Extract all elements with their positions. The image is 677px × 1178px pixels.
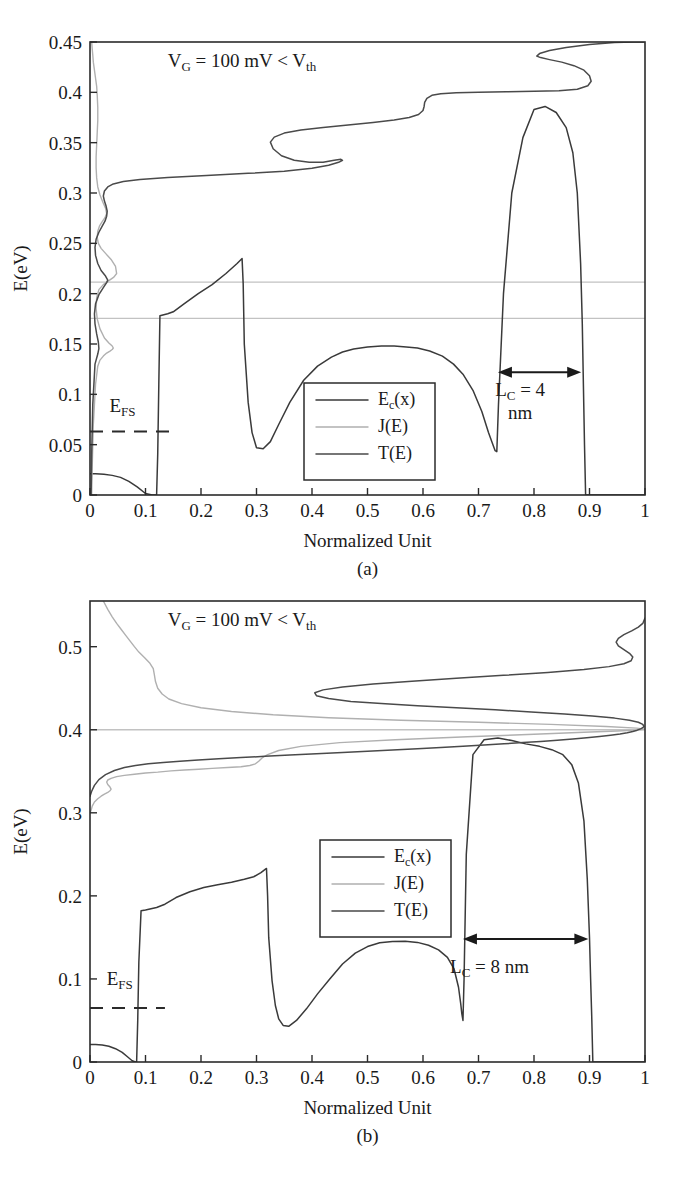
lc-label: LC = 4nm: [495, 379, 545, 423]
lc-arrow-head-right: [567, 367, 581, 378]
legend-box: [320, 840, 451, 937]
x-axis-title: Normalized Unit: [303, 530, 432, 551]
x-tick-label: 0.6: [411, 500, 435, 521]
x-tick-label: 0.2: [189, 1067, 213, 1088]
bias-condition-annotation: VG = 100 mV < Vth: [168, 609, 317, 633]
plot-b: 00.10.20.30.40.50.60.70.80.9100.10.20.30…: [0, 590, 677, 1178]
x-tick-label: 1: [640, 500, 650, 521]
x-tick-label: 1: [640, 1067, 650, 1088]
x-tick-label: 0.9: [578, 500, 602, 521]
x-tick-label: 0.5: [356, 500, 380, 521]
x-axis-title: Normalized Unit: [303, 1097, 432, 1118]
x-tick-label: 0.1: [134, 500, 158, 521]
efs-label: EFS: [109, 395, 135, 419]
y-tick-label: 0.25: [49, 233, 82, 254]
x-tick-label: 0: [85, 1067, 95, 1088]
x-tick-label: 0.7: [467, 1067, 491, 1088]
y-axis-title: E(eV): [10, 808, 32, 854]
x-tick-label: 0.8: [522, 1067, 546, 1088]
curve-je: [90, 601, 645, 813]
y-tick-label: 0.45: [49, 32, 82, 53]
y-tick-label: 0: [73, 485, 83, 506]
legend-label-te: T(E): [378, 443, 412, 464]
panel-a: 00.10.20.30.40.50.60.70.80.9100.050.10.1…: [0, 0, 677, 590]
y-tick-label: 0.05: [49, 435, 82, 456]
x-tick-label: 0.7: [467, 500, 491, 521]
y-tick-label: 0.4: [58, 82, 82, 103]
legend-label-je: J(E): [378, 416, 408, 437]
legend-label-je: J(E): [394, 873, 424, 894]
y-tick-label: 0.3: [58, 803, 82, 824]
y-tick-label: 0.3: [58, 183, 82, 204]
legend-label-te: T(E): [394, 900, 428, 921]
y-tick-label: 0.35: [49, 133, 82, 154]
x-tick-label: 0.5: [356, 1067, 380, 1088]
x-tick-label: 0.6: [411, 1067, 435, 1088]
y-tick-label: 0.1: [58, 969, 82, 990]
bias-condition-annotation: VG = 100 mV < Vth: [168, 50, 317, 74]
lc-label: LC = 8 nm: [450, 956, 529, 980]
figure-container: 00.10.20.30.40.50.60.70.80.9100.050.10.1…: [0, 0, 677, 1178]
y-tick-label: 0: [73, 1052, 83, 1073]
legend-label-ecx: Ec(x): [394, 846, 431, 869]
curve-je: [92, 42, 117, 495]
panel-caption: (b): [356, 1125, 378, 1147]
panel-b: 00.10.20.30.40.50.60.70.80.9100.10.20.30…: [0, 590, 677, 1178]
x-tick-label: 0.4: [300, 500, 324, 521]
x-tick-label: 0.3: [245, 500, 269, 521]
y-axis-title: E(eV): [10, 245, 32, 291]
plot-a: 00.10.20.30.40.50.60.70.80.9100.050.10.1…: [0, 0, 677, 590]
curve-te: [90, 618, 645, 796]
x-tick-label: 0.9: [578, 1067, 602, 1088]
y-tick-label: 0.2: [58, 886, 82, 907]
lc-arrow-head-right: [574, 934, 588, 945]
curves-group: [90, 601, 645, 1062]
x-tick-label: 0.3: [245, 1067, 269, 1088]
x-tick-label: 0: [85, 500, 95, 521]
y-tick-label: 0.2: [58, 284, 82, 305]
x-tick-label: 0.4: [300, 1067, 324, 1088]
x-tick-label: 0.2: [189, 500, 213, 521]
y-tick-label: 0.15: [49, 334, 82, 355]
y-tick-label: 0.5: [58, 637, 82, 658]
x-tick-label: 0.8: [522, 500, 546, 521]
legend-label-ecx: Ec(x): [378, 389, 415, 412]
legend-box: [304, 383, 435, 480]
y-tick-label: 0.4: [58, 720, 82, 741]
y-tick-label: 0.1: [58, 384, 82, 405]
plot-frame: [90, 601, 645, 1062]
x-tick-label: 0.1: [134, 1067, 158, 1088]
efs-label: EFS: [107, 968, 133, 992]
panel-caption: (a): [357, 558, 378, 580]
